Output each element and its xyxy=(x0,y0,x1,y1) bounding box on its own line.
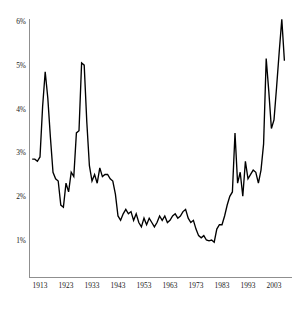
x-tick-label: 1923 xyxy=(59,281,74,290)
x-tick-label: 1983 xyxy=(215,281,230,290)
y-tick-label: 3% xyxy=(16,148,26,157)
y-tick-label: 5% xyxy=(16,61,26,70)
y-tick-label: 6% xyxy=(16,17,26,26)
x-axis-tick-labels: 1913192319331943195319631973198319932003 xyxy=(33,281,282,290)
data-series-line xyxy=(32,19,284,242)
x-tick-label: 1973 xyxy=(189,281,204,290)
line-chart: 1%2%3%4%5%6% 191319231933194319531963197… xyxy=(0,0,298,312)
chart-container: 1%2%3%4%5%6% 191319231933194319531963197… xyxy=(0,0,298,312)
axes xyxy=(30,19,293,278)
y-tick-label: 4% xyxy=(16,105,26,114)
y-axis-tick-labels: 1%2%3%4%5%6% xyxy=(16,17,26,245)
y-tick-label: 1% xyxy=(16,236,26,245)
y-tick-label: 2% xyxy=(16,192,26,201)
x-tick-label: 1963 xyxy=(163,281,178,290)
x-tick-label: 1913 xyxy=(33,281,48,290)
x-tick-label: 1993 xyxy=(241,281,256,290)
x-tick-label: 1933 xyxy=(85,281,100,290)
x-tick-label: 2003 xyxy=(267,281,282,290)
x-tick-label: 1953 xyxy=(137,281,152,290)
x-tick-label: 1943 xyxy=(111,281,126,290)
